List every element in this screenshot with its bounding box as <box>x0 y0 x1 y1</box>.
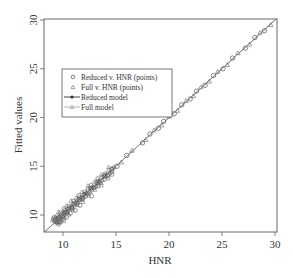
x-tick-label: 30 <box>270 238 282 250</box>
legend-label: Full v. HNR (points) <box>81 83 144 92</box>
legend-label: Reduced v. HNR (points) <box>81 73 158 82</box>
full-point <box>175 108 179 112</box>
x-axis-label: HNR <box>148 254 172 266</box>
y-axis: 1015202530 <box>27 14 44 221</box>
legend: Reduced v. HNR (points) Full v. HNR (poi… <box>62 69 172 117</box>
legend-label: Reduced model <box>81 93 128 102</box>
full-point <box>247 42 251 46</box>
y-tick-label: 15 <box>27 160 39 172</box>
full-point <box>269 23 273 27</box>
y-tick-label: 10 <box>27 209 39 221</box>
y-tick-label: 25 <box>27 63 39 75</box>
full-point <box>191 94 195 98</box>
y-axis-label: Fitted values <box>12 97 24 154</box>
legend-item-full-points: Full v. HNR (points) <box>71 83 144 92</box>
y-tick-label: 30 <box>27 14 39 26</box>
x-tick-label: 15 <box>111 238 123 250</box>
y-tick-label: 20 <box>27 112 39 124</box>
x-tick-label: 10 <box>58 238 70 250</box>
full-point <box>207 79 211 83</box>
full-point <box>225 63 229 67</box>
full-point <box>143 138 147 142</box>
chart-canvas: 1015202530 1015202530 HNR Fitted values … <box>0 0 293 278</box>
legend-label: Full model <box>81 103 114 112</box>
full-point <box>119 160 123 164</box>
scatter-chart: 1015202530 1015202530 HNR Fitted values … <box>0 0 293 278</box>
x-tick-label: 20 <box>164 238 176 250</box>
circle-marker-icon <box>70 95 73 98</box>
x-tick-label: 25 <box>217 238 229 250</box>
x-axis: 1015202530 <box>58 232 282 250</box>
reduced-point <box>90 194 94 198</box>
legend-item-reduced-points: Reduced v. HNR (points) <box>71 73 157 82</box>
